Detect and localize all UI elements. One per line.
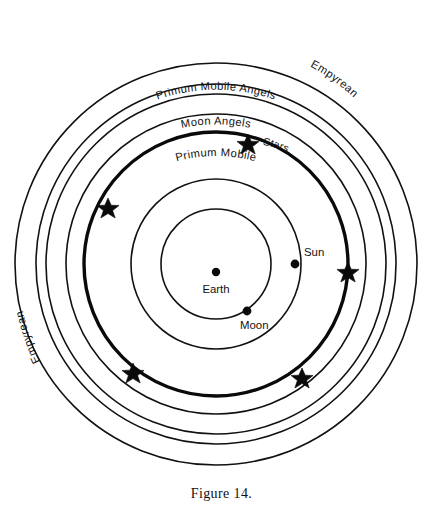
label-empyrean-bottom: Empyrean (13, 310, 42, 366)
moon-label: Moon (240, 319, 269, 331)
figure-caption: Figure 14. (0, 486, 443, 502)
star-markers (97, 134, 359, 388)
sphere-primum-mobile-angels (36, 84, 396, 444)
earth-dot (212, 268, 220, 276)
sphere-moon-angels (46, 94, 386, 434)
sphere-primum-mobile (66, 114, 366, 414)
sphere-sun (131, 179, 301, 349)
earth-label: Earth (202, 283, 229, 295)
label-stars: Stars (262, 135, 291, 154)
label-moon-angels: Moon Angels (180, 114, 252, 129)
star-lower-left-icon (122, 363, 144, 383)
sphere-stars (84, 132, 348, 396)
moon-dot (243, 307, 252, 316)
sphere-moon (161, 209, 271, 319)
sun-dot (291, 260, 300, 269)
figure-container: Empyrean Empyrean Primum Mobile Angels M… (0, 0, 443, 515)
label-primum-mobile-angels: Primum Mobile Angels (154, 80, 277, 102)
sun-label: Sun (304, 246, 324, 258)
cosmological-diagram: Empyrean Empyrean Primum Mobile Angels M… (0, 0, 443, 515)
label-empyrean-top: Empyrean (309, 58, 361, 100)
